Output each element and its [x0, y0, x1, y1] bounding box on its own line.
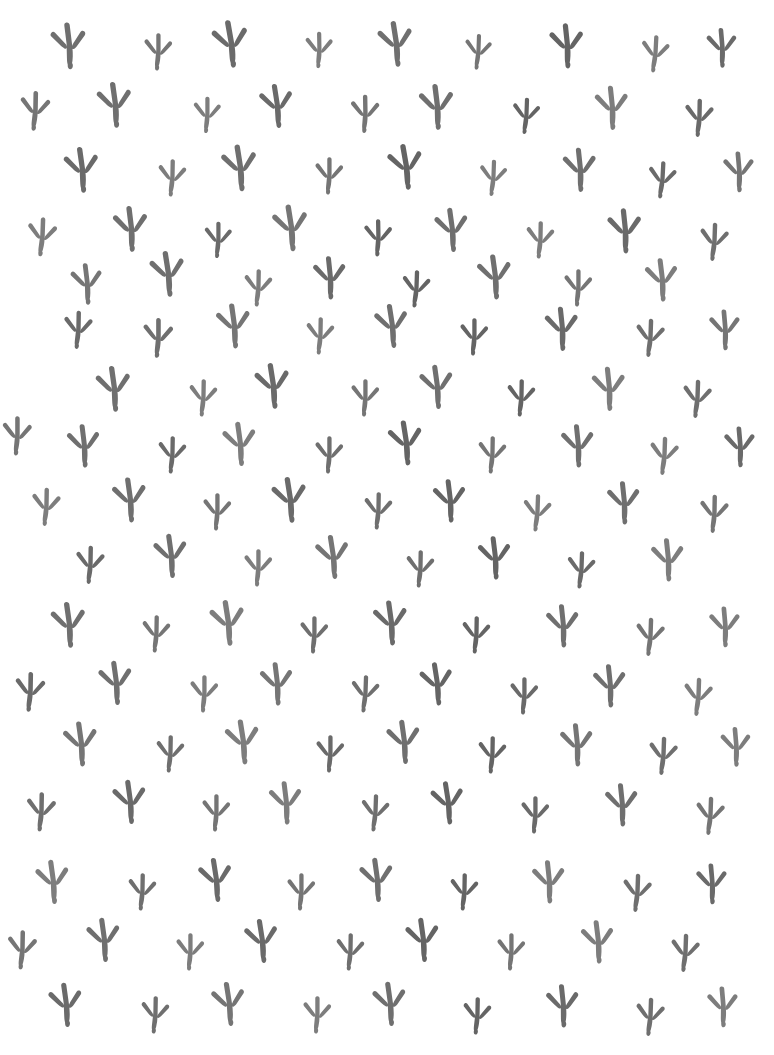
bird-footprint-icon	[219, 713, 266, 771]
bird-footprint-icon	[153, 431, 190, 478]
bird-footprint-icon	[644, 432, 683, 481]
bird-footprint-icon	[347, 91, 384, 138]
bird-footprint-icon	[617, 869, 656, 918]
bird-footprint-icon	[354, 852, 399, 908]
bird-footprint-icon	[217, 416, 262, 472]
bird-footprint-icon	[368, 594, 414, 651]
bird-footprint-icon	[239, 264, 276, 311]
bird-footprint-icon	[636, 30, 675, 78]
bird-footprint-icon	[184, 374, 221, 421]
bird-footprint-icon	[90, 360, 137, 419]
bird-footprint-icon	[457, 611, 494, 658]
bird-footprint-icon	[21, 787, 60, 836]
bird-footprint-icon	[474, 155, 511, 201]
bird-footprint-icon	[705, 305, 744, 355]
bird-footprint-icon	[15, 86, 55, 136]
bird-footprint-icon	[630, 314, 669, 363]
bird-footprint-icon	[493, 929, 530, 975]
bird-footprint-icon	[589, 659, 632, 713]
bird-footprint-icon	[677, 375, 716, 424]
bird-footprint-icon	[590, 80, 634, 135]
bird-footprint-icon	[299, 992, 336, 1038]
bird-footprint-icon	[414, 78, 460, 136]
bird-footprint-icon	[601, 778, 644, 832]
bird-footprint-icon	[703, 982, 742, 1032]
bird-footprint-icon	[705, 602, 744, 652]
bird-footprint-icon	[717, 722, 755, 771]
bird-footprint-icon	[414, 656, 459, 712]
bird-footprint-icon	[81, 912, 126, 968]
bird-footprint-icon	[690, 792, 729, 841]
bird-footprint-icon	[545, 18, 589, 74]
bird-footprint-icon	[151, 730, 188, 777]
bird-footprint-icon	[400, 912, 445, 968]
bird-footprint-icon	[312, 731, 349, 777]
bird-footprint-icon	[473, 431, 510, 478]
bird-footprint-icon	[445, 868, 482, 915]
bird-footprint-icon	[720, 422, 759, 472]
bird-footprint-icon	[172, 929, 209, 975]
bird-footprint-icon	[193, 851, 239, 908]
bird-footprint-icon	[45, 16, 92, 75]
bird-footprint-icon	[255, 657, 299, 712]
bird-footprint-icon	[630, 993, 669, 1042]
bird-footprint-icon	[360, 215, 396, 261]
bird-footprint-icon	[91, 76, 138, 135]
bird-footprint-icon	[381, 714, 426, 770]
bird-footprint-icon	[0, 412, 36, 461]
bird-footprint-icon	[603, 203, 647, 259]
bird-footprint-icon	[560, 265, 597, 311]
bird-footprint-icon	[528, 855, 571, 909]
bird-footprint-icon	[264, 776, 308, 831]
bird-footprint-icon	[301, 28, 336, 73]
bird-footprint-icon	[521, 216, 558, 263]
bird-footprint-icon	[562, 546, 600, 594]
bird-footprint-icon	[359, 487, 396, 534]
bird-footprint-icon	[372, 14, 420, 73]
bird-footprint-icon	[397, 265, 435, 313]
bird-footprint-icon	[647, 533, 690, 587]
bird-footprint-icon	[558, 142, 602, 197]
bird-footprint-icon	[502, 374, 539, 421]
bird-footprint-icon	[587, 361, 631, 416]
bird-footprint-icon	[309, 251, 352, 305]
bird-footprint-icon	[2, 925, 41, 974]
bird-footprint-icon	[200, 217, 236, 262]
bird-footprint-icon	[414, 359, 459, 415]
bird-footprint-icon	[144, 244, 192, 303]
bird-footprint-icon	[678, 673, 717, 722]
bird-footprint-icon	[136, 991, 173, 1038]
bird-footprint-icon	[576, 915, 620, 970]
bird-footprint-icon	[311, 153, 348, 199]
bird-footprint-icon	[472, 248, 518, 305]
bird-footprint-icon	[58, 715, 104, 772]
bird-footprint-icon	[425, 775, 470, 831]
bird-footprint-icon	[266, 470, 314, 529]
bird-footprint-icon	[148, 528, 193, 584]
bird-footprint-icon	[199, 489, 236, 535]
bird-footprint-icon	[198, 790, 235, 836]
bird-footprint-icon	[43, 977, 88, 1033]
bird-footprint-icon	[692, 859, 731, 909]
bird-footprint-icon	[59, 306, 97, 354]
bird-footprint-icon	[603, 476, 646, 530]
bird-footprint-icon	[630, 613, 669, 662]
bird-footprint-icon	[240, 545, 277, 591]
bird-footprint-icon	[643, 156, 682, 204]
bird-footprint-icon	[517, 792, 554, 838]
bird-footprint-icon	[93, 655, 138, 711]
bird-footprint-icon	[458, 992, 495, 1039]
bird-footprint-icon	[107, 774, 152, 830]
bird-footprint-icon	[206, 975, 252, 1032]
bird-footprint-icon	[557, 419, 600, 473]
bird-footprint-icon	[301, 312, 338, 359]
bird-footprint-icon	[694, 218, 733, 267]
bird-footprint-icon	[138, 313, 177, 363]
bird-footprint-icon	[719, 147, 758, 197]
bird-footprint-icon	[695, 490, 733, 538]
bird-footprint-icon	[204, 593, 252, 652]
bird-footprint-icon	[665, 929, 704, 978]
bird-footprint-icon	[216, 138, 265, 198]
bird-footprint-icon	[347, 375, 384, 421]
bird-footprint-icon	[428, 474, 472, 529]
